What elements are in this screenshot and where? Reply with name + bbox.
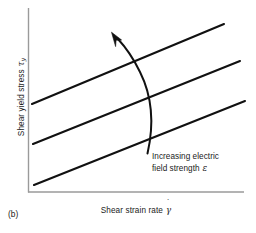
annotation-line-1: Increasing electric <box>152 152 248 163</box>
annotation-field-symbol: ε <box>203 163 208 173</box>
annotation-line-2-text: field strength <box>152 164 200 173</box>
x-axis-title-accent: ˙ <box>167 199 170 208</box>
annotation-increasing-field: Increasing electric field strengthε <box>152 152 248 174</box>
x-axis-title: Shear strain rateγ˙ <box>28 204 244 217</box>
increasing-field-arrow <box>112 32 152 153</box>
panel-label: (b) <box>8 209 18 219</box>
y-axis-title-symbol: τ <box>16 61 26 66</box>
annotation-line-2: field strengthε <box>152 163 248 175</box>
figure-panel-b: Shear yield stressτy Shear strain rateγ˙… <box>0 0 256 233</box>
x-axis-title-symbol-group: γ˙ <box>166 204 171 217</box>
data-line-mid-field <box>33 61 240 144</box>
arrow-head-icon <box>112 32 122 46</box>
y-axis-title-subscript: y <box>19 58 26 62</box>
y-axis-title-text: Shear yield stress <box>17 69 26 136</box>
x-axis-title-text: Shear strain rate <box>101 206 163 215</box>
y-axis-title: Shear yield stressτy <box>14 2 28 192</box>
plot-canvas <box>0 0 256 233</box>
data-line-high-field <box>32 24 224 104</box>
